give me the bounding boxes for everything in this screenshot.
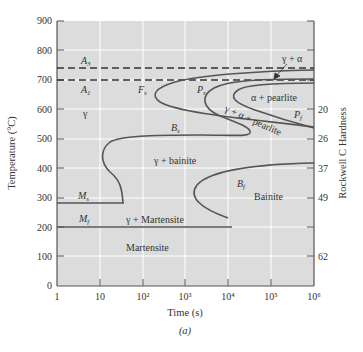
svg-text:10⁴: 10⁴ <box>221 291 235 302</box>
svg-text:400: 400 <box>37 163 52 174</box>
svg-text:1: 1 <box>55 291 60 302</box>
svg-text:10⁵: 10⁵ <box>264 291 278 302</box>
x-tick-labels: 1 10 10² 10³ 10⁴ 10⁵ 10⁶ <box>55 291 322 302</box>
y-tick-labels: 900 800 700 600 500 400 300 200 100 0 <box>37 15 52 291</box>
svg-text:10: 10 <box>95 291 105 302</box>
svg-text:49: 49 <box>318 192 328 203</box>
svg-text:700: 700 <box>37 74 52 85</box>
svg-text:62: 62 <box>318 251 328 262</box>
figure-caption: (a) <box>179 325 192 337</box>
x-axis-title: Time (s) <box>167 307 203 319</box>
svg-text:900: 900 <box>37 15 52 26</box>
gamma-bainite-label: γ + bainite <box>153 155 197 166</box>
svg-text:500: 500 <box>37 133 52 144</box>
svg-text:10⁶: 10⁶ <box>307 291 321 302</box>
ttt-diagram: 900 800 700 600 500 400 300 200 100 0 1 … <box>0 0 363 352</box>
svg-text:600: 600 <box>37 104 52 115</box>
svg-text:10³: 10³ <box>179 291 192 302</box>
y2-tick-labels: 20 26 37 49 62 <box>318 104 328 262</box>
svg-text:100: 100 <box>37 251 52 262</box>
y-axis-title: Temperature (°C) <box>6 116 18 190</box>
martensite-label: Martensite <box>126 242 169 253</box>
bainite-label: Bainite <box>254 191 283 202</box>
svg-text:800: 800 <box>37 45 52 56</box>
svg-text:0: 0 <box>47 280 52 291</box>
svg-text:20: 20 <box>318 104 328 115</box>
svg-text:200: 200 <box>37 222 52 233</box>
alpha-pearlite-label: α + pearlite <box>251 92 297 103</box>
svg-text:26: 26 <box>318 133 328 144</box>
y2-axis-title: Rockwell C Hardness <box>337 107 348 199</box>
svg-text:37: 37 <box>318 163 328 174</box>
gamma-martensite-label: γ + Martensite <box>125 214 184 225</box>
svg-text:300: 300 <box>37 192 52 203</box>
svg-text:10²: 10² <box>137 291 150 302</box>
gamma-alpha-label: γ + α <box>281 53 303 64</box>
gamma-label: γ <box>82 108 88 119</box>
